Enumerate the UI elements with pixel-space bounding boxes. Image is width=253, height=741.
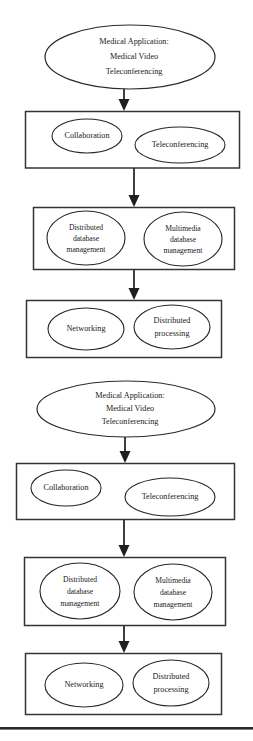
connector-arrow-4 — [120, 437, 131, 463]
node-label: Teleconferencing — [142, 492, 199, 501]
node-label: Networking — [64, 680, 103, 689]
node-label: Teleconferencing — [152, 140, 209, 149]
root-label-line-3: Teleconferencing — [102, 417, 159, 426]
node-label-line-1: Multimedia — [155, 576, 191, 585]
node-label: Collaboration — [43, 483, 88, 492]
node-label-line-1: Distributed — [154, 316, 191, 325]
node-label: Networking — [66, 324, 105, 333]
layer-box-1-3: Networking Distributed processing — [27, 301, 222, 358]
node-label: Collaboration — [64, 131, 109, 140]
node-label-line-3: management — [154, 600, 194, 609]
connector-arrow-5 — [119, 520, 130, 557]
layer-box-2-1: Collaboration Teleconferencing — [17, 464, 235, 520]
node-label-line-3: management — [67, 245, 107, 254]
node-label-line-2: database — [170, 235, 197, 244]
layer-box-1-1: Collaboration Teleconferencing — [26, 112, 240, 169]
node-label-line-3: management — [164, 246, 204, 255]
root-label-line-3: Teleconferencing — [106, 67, 163, 76]
node-label-line-2: processing — [153, 685, 188, 694]
root-label-line-2: Medical Video — [110, 52, 158, 61]
root-label-line-1: Medical Application: — [95, 391, 164, 400]
architecture-diagram: Medical Application: Medical Video Telec… — [0, 0, 253, 741]
node-label-line-1: Multimedia — [165, 224, 201, 233]
node-label-line-3: management — [61, 599, 101, 608]
connector-arrow-1 — [119, 89, 130, 111]
root-node-group-1: Medical Application: Medical Video Telec… — [45, 25, 215, 89]
connector-arrow-3 — [129, 270, 140, 300]
root-label-line-1: Medical Application: — [99, 37, 168, 46]
node-label-line-2: database — [73, 234, 100, 243]
node-label-line-1: Distributed — [153, 672, 190, 681]
layer-box-1-2: Distributed database management Multimed… — [34, 208, 235, 270]
layer-box-2-2: Distributed database management Multimed… — [25, 558, 226, 626]
node-ellipse-distributed-processing — [134, 305, 210, 349]
footer-divider — [0, 727, 253, 730]
layer-box-2-3: Networking Distributed processing — [26, 654, 222, 715]
node-label-line-2: processing — [154, 329, 189, 338]
node-label-line-2: database — [160, 588, 187, 597]
root-node-group-2: Medical Application: Medical Video Telec… — [37, 381, 215, 437]
node-label-line-2: database — [67, 587, 94, 596]
node-label-line-1: Distributed — [63, 575, 97, 584]
node-ellipse-distributed-processing — [133, 660, 209, 706]
node-label-line-1: Distributed — [69, 223, 103, 232]
connector-arrow-2 — [129, 168, 140, 207]
root-label-line-2: Medical Video — [106, 404, 154, 413]
connector-arrow-6 — [119, 626, 130, 653]
